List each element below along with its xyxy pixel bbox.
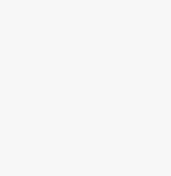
figure-container: Hollow Triangle Outline A thick-stroked … (0, 0, 171, 176)
paper-background (0, 0, 171, 176)
